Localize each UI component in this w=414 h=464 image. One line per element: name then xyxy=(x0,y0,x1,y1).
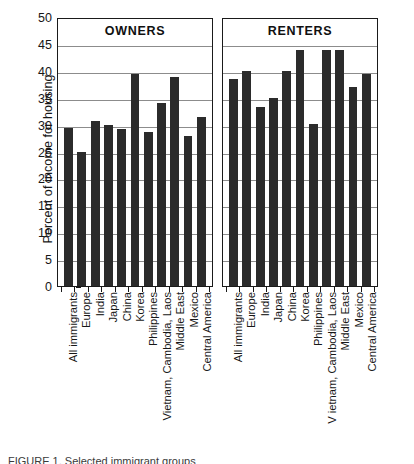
x-tick-mark xyxy=(182,287,183,292)
x-label-slot: V ietnam, Cambodia, Laos xyxy=(322,289,331,464)
y-tick-label: 45 xyxy=(24,39,52,52)
x-label-slot: Central America xyxy=(198,289,207,464)
x-tick-mark xyxy=(74,287,75,292)
x-label-slot: Central America xyxy=(363,289,372,464)
figure-caption: FIGURE 1. Selected immigrant groups xyxy=(8,455,408,464)
bar xyxy=(104,125,113,286)
y-tick-label: 50 xyxy=(24,12,52,25)
panel-title-renters: RENTERS xyxy=(223,24,377,38)
x-tick-mark xyxy=(361,287,362,292)
x-label-slot: Korea xyxy=(130,289,139,464)
x-tick-mark xyxy=(61,287,62,292)
x-tick-mark xyxy=(280,287,281,292)
x-tick-mark xyxy=(307,287,308,292)
panel-title-owners: OWNERS xyxy=(58,24,212,38)
bar xyxy=(282,71,291,286)
bar xyxy=(144,132,153,286)
bar xyxy=(131,74,140,286)
y-tick-label: 5 xyxy=(24,254,52,267)
x-label-slot: Philippines xyxy=(309,289,318,464)
x-tick-mark xyxy=(142,287,143,292)
y-tick-label: 40 xyxy=(24,66,52,79)
x-label-slot: India xyxy=(90,289,99,464)
x-tick-mark xyxy=(128,287,129,292)
bar xyxy=(170,77,179,286)
y-tick-label: 0 xyxy=(24,281,52,294)
bar xyxy=(77,152,86,287)
x-label-slot: Europe xyxy=(242,289,251,464)
x-tick-mark xyxy=(101,287,102,292)
y-tick-label: 10 xyxy=(24,227,52,240)
y-tick-label: 30 xyxy=(24,119,52,132)
x-tick-mark xyxy=(88,287,89,292)
x-axis-labels-renters: All immigrantsEuropeIndiaJapanChinaKorea… xyxy=(222,289,378,464)
bar xyxy=(242,71,251,286)
x-label-slot: Europe xyxy=(77,289,86,464)
x-label-slot: China xyxy=(117,289,126,464)
x-label-slot: Mexico xyxy=(184,289,193,464)
x-label-slot: Philippines xyxy=(144,289,153,464)
x-label-slot: China xyxy=(282,289,291,464)
x-label-slot: Vietnam, Cambodia, Laos xyxy=(157,289,166,464)
x-tick-mark xyxy=(293,287,294,292)
y-tick-label: 25 xyxy=(24,146,52,159)
x-tick-mark xyxy=(266,287,267,292)
x-label-slot: Japan xyxy=(269,289,278,464)
bar xyxy=(349,87,358,286)
bar xyxy=(362,74,371,286)
bar xyxy=(322,50,331,286)
x-axis-labels-owners: All immigrantsEuropeIndiaJapanChinaKorea… xyxy=(57,289,213,464)
y-tick-mark xyxy=(76,287,81,288)
y-tick-label: 15 xyxy=(24,200,52,213)
bar xyxy=(64,128,73,286)
x-label-slot: All immigrants xyxy=(63,289,72,464)
x-tick-mark xyxy=(115,287,116,292)
x-tick-mark xyxy=(347,287,348,292)
x-tick-mark xyxy=(169,287,170,292)
x-tick-mark xyxy=(334,287,335,292)
bar xyxy=(309,124,318,286)
bar xyxy=(256,107,265,286)
x-tick-mark xyxy=(196,287,197,292)
bar xyxy=(117,129,126,286)
panel-owners: OWNERS xyxy=(57,18,213,287)
x-label-slot: Japan xyxy=(104,289,113,464)
x-tick-mark xyxy=(226,287,227,292)
x-tick-mark xyxy=(209,287,210,292)
x-label-slot: Mexico xyxy=(349,289,358,464)
bar xyxy=(229,79,238,286)
bar xyxy=(296,50,305,286)
x-label-slot: Middle East xyxy=(171,289,180,464)
y-tick-label: 35 xyxy=(24,92,52,105)
bar xyxy=(335,50,344,286)
x-label-slot: Korea xyxy=(295,289,304,464)
x-label-slot: Middle East xyxy=(336,289,345,464)
y-axis-tick-labels: 50454035302520151050 xyxy=(24,18,52,287)
bar xyxy=(91,121,100,286)
bars-owners xyxy=(58,19,212,286)
bars-renters xyxy=(223,19,377,286)
bar xyxy=(197,117,206,286)
x-label-slot: India xyxy=(255,289,264,464)
bar xyxy=(184,136,193,286)
x-tick-mark xyxy=(374,287,375,292)
x-tick-mark xyxy=(155,287,156,292)
x-label-slot: All immigrants xyxy=(228,289,237,464)
bar xyxy=(157,103,166,286)
x-tick-label: Central America xyxy=(202,292,213,372)
y-tick-label: 20 xyxy=(24,173,52,186)
x-tick-mark xyxy=(253,287,254,292)
panel-renters: RENTERS xyxy=(222,18,378,287)
figure-bar-chart-housing-cost-burden: Percent of income for housing 5045403530… xyxy=(0,0,414,464)
bar xyxy=(269,98,278,286)
x-tick-label: Central America xyxy=(367,292,378,372)
x-tick-mark xyxy=(320,287,321,292)
x-tick-mark xyxy=(239,287,240,292)
